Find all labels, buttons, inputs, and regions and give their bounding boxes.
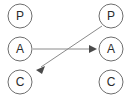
node-label-left-a: A	[16, 42, 24, 56]
edge-line-diagonal	[41, 26, 102, 67]
node-label-right-a: A	[107, 42, 115, 56]
node-label-left-c: C	[16, 75, 25, 89]
pac-node-diagram: P A C P A C	[0, 0, 132, 100]
edge-layer	[33, 26, 102, 74]
node-left-p[interactable]: P	[8, 4, 32, 28]
node-left-a[interactable]: A	[8, 37, 32, 61]
diagram-canvas: P A C P A C	[0, 0, 132, 100]
node-label-left-p: P	[16, 9, 24, 23]
arrowhead-down-left-icon	[36, 66, 45, 74]
node-label-right-p: P	[107, 9, 115, 23]
node-right-c[interactable]: C	[99, 70, 123, 94]
node-right-p[interactable]: P	[99, 4, 123, 28]
edge-left-a-to-right-a[interactable]	[33, 45, 97, 53]
arrowhead-right-icon	[89, 45, 97, 53]
node-left-c[interactable]: C	[8, 70, 32, 94]
node-right-a[interactable]: A	[99, 37, 123, 61]
node-label-right-c: C	[107, 75, 116, 89]
